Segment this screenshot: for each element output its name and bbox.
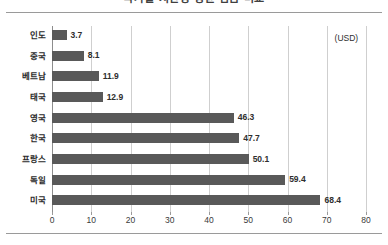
- bar-row: 46.3: [52, 109, 366, 128]
- x-tick-mark-60: [288, 212, 289, 215]
- bar-프랑스[interactable]: [52, 154, 249, 164]
- x-tick-60: 60: [283, 214, 292, 226]
- x-tick-50: 50: [244, 214, 253, 226]
- category-label-베트남: 베트남: [0, 70, 46, 82]
- category-label-한국: 한국: [0, 132, 46, 144]
- category-label-미국: 미국: [0, 194, 46, 206]
- x-axis-tick-labels: 01020304050607080: [52, 214, 366, 228]
- bar-row: 68.4: [52, 191, 366, 210]
- bar-미국[interactable]: [52, 195, 320, 205]
- x-tick-mark-70: [327, 212, 328, 215]
- bar-영국[interactable]: [52, 113, 234, 123]
- x-tick-mark-50: [248, 212, 249, 215]
- plot-area: 3.78.111.912.946.347.750.159.468.4: [52, 26, 366, 212]
- bar-row: 3.7: [52, 26, 366, 45]
- bar-row: 59.4: [52, 171, 366, 190]
- x-tick-10: 10: [87, 214, 96, 226]
- x-tick-mark-30: [170, 212, 171, 215]
- category-label-인도: 인도: [0, 29, 46, 41]
- bar-row: 8.1: [52, 47, 366, 66]
- bar-value-label-미국: 68.4: [324, 193, 341, 207]
- x-tick-mark-20: [131, 212, 132, 215]
- bar-value-label-한국: 47.7: [243, 131, 260, 145]
- gridline-80: [366, 26, 367, 212]
- bar-인도[interactable]: [52, 30, 67, 40]
- bar-value-label-독일: 59.4: [289, 172, 306, 186]
- unit-annotation: (USD): [335, 32, 359, 44]
- category-label-중국: 중국: [0, 50, 46, 62]
- x-tick-mark-0: [52, 212, 53, 215]
- category-label-프랑스: 프랑스: [0, 153, 46, 165]
- figure-top-rule: [6, 12, 382, 13]
- category-label-독일: 독일: [0, 174, 46, 186]
- chart-figure: 국가별 시간당 평균 임금 비교 인도중국베트남태국영국한국프랑스독일미국 3.…: [0, 0, 388, 245]
- x-tick-30: 30: [165, 214, 174, 226]
- bar-태국[interactable]: [52, 92, 103, 102]
- x-tick-80: 80: [361, 214, 370, 226]
- bar-독일[interactable]: [52, 175, 285, 185]
- x-tick-70: 70: [322, 214, 331, 226]
- bar-row: 47.7: [52, 129, 366, 148]
- x-tick-mark-80: [366, 212, 367, 215]
- category-label-태국: 태국: [0, 91, 46, 103]
- x-tick-20: 20: [126, 214, 135, 226]
- figure-bottom-rule: [6, 233, 382, 234]
- category-axis: 인도중국베트남태국영국한국프랑스독일미국: [0, 26, 46, 212]
- bar-row: 50.1: [52, 150, 366, 169]
- bar-value-label-영국: 46.3: [238, 110, 255, 124]
- x-tick-40: 40: [204, 214, 213, 226]
- bar-row: 12.9: [52, 88, 366, 107]
- chart-title: 국가별 시간당 평균 임금 비교: [0, 0, 388, 11]
- category-label-영국: 영국: [0, 112, 46, 124]
- bar-베트남[interactable]: [52, 71, 99, 81]
- bar-한국[interactable]: [52, 133, 239, 143]
- bar-value-label-태국: 12.9: [107, 90, 124, 104]
- bar-value-label-베트남: 11.9: [103, 69, 119, 83]
- bar-중국[interactable]: [52, 51, 84, 61]
- bar-row: 11.9: [52, 67, 366, 86]
- x-tick-mark-10: [91, 212, 92, 215]
- bar-value-label-인도: 3.7: [71, 28, 83, 42]
- x-tick-0: 0: [50, 214, 55, 226]
- bar-value-label-중국: 8.1: [88, 48, 100, 62]
- bar-value-label-프랑스: 50.1: [253, 152, 270, 166]
- x-tick-mark-40: [209, 212, 210, 215]
